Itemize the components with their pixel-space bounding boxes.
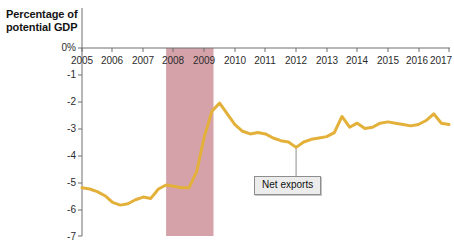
- x-tick-label-2012: 2012: [285, 55, 308, 66]
- x-tick-label-2016: 2016: [406, 55, 429, 66]
- x-tick-label-2017: 2017: [430, 55, 453, 66]
- y-tick-label-3: -3: [67, 123, 76, 134]
- x-tick-label-2006: 2006: [101, 55, 124, 66]
- x-tick-label-2010: 2010: [224, 55, 247, 66]
- y-tick-label-4: -4: [67, 150, 76, 161]
- x-tick-label-2008: 2008: [162, 55, 185, 66]
- recession-band: [166, 48, 213, 236]
- y-tick-label-1: -1: [67, 69, 76, 80]
- plot-area: 0% -1 -2 -3 -4 -5 -6 -7: [0, 0, 454, 248]
- x-tick-marks: [82, 48, 449, 52]
- net-exports-chart: Percentage of potential GDP 0% -1 -2 -3 …: [0, 0, 454, 248]
- x-tick-label-2014: 2014: [346, 55, 369, 66]
- x-tick-label-2009: 2009: [193, 55, 216, 66]
- y-tick-label-2: -2: [67, 96, 76, 107]
- y-tick-label-6: -6: [67, 204, 76, 215]
- x-tick-label-2013: 2013: [316, 55, 339, 66]
- y-tick-label-5: -5: [67, 177, 76, 188]
- x-tick-label-2005: 2005: [71, 55, 94, 66]
- x-tick-label-2007: 2007: [132, 55, 155, 66]
- x-tick-label-2015: 2015: [377, 55, 400, 66]
- y-tick-label-7: -7: [67, 231, 76, 242]
- net-exports-annotation-label[interactable]: Net exports: [254, 176, 321, 195]
- x-tick-label-2011: 2011: [254, 55, 276, 66]
- y-tick-label-0: 0%: [62, 42, 77, 53]
